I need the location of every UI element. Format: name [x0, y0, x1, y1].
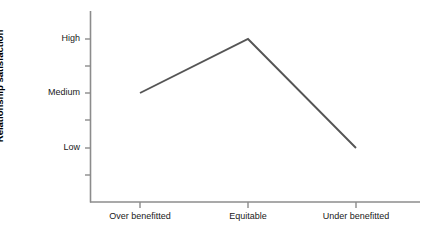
x-tick-label-equitable: Equitable	[194, 211, 302, 222]
x-tick-label-over-benefitted: Over benefitted	[86, 211, 194, 222]
y-tick-label-medium: Medium	[28, 87, 80, 98]
x-axis-ticks	[140, 202, 356, 208]
y-tick-label-low: Low	[28, 142, 80, 153]
data-line-relationship-satisfaction	[140, 39, 356, 148]
y-axis-title: Relationship satisfaction	[0, 0, 7, 181]
y-tick-label-high: High	[28, 33, 80, 44]
chart-figure: Relationship satisfaction High Medium Lo…	[0, 0, 429, 235]
x-tick-label-under-benefitted: Under benefitted	[302, 211, 410, 222]
